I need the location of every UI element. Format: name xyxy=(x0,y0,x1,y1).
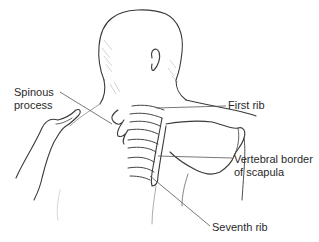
leader-vertebral xyxy=(158,156,232,158)
label-line: Vertebral border xyxy=(234,153,313,166)
anatomy-figure: Spinous process First rib Vertebral bord… xyxy=(0,0,319,242)
spine-fingers xyxy=(112,110,128,144)
leader-spinous xyxy=(60,92,112,124)
right-hand xyxy=(166,121,245,174)
leader-firstrib xyxy=(156,106,226,108)
label-first-rib: First rib xyxy=(228,99,265,112)
ear xyxy=(152,49,160,70)
leader-seventh xyxy=(150,176,210,226)
head-outline xyxy=(99,10,183,80)
neck-right xyxy=(176,80,186,100)
label-spinous-process: Spinous process xyxy=(14,86,54,112)
label-seventh-rib: Seventh rib xyxy=(212,221,268,234)
left-hand xyxy=(16,109,80,200)
torso-lines xyxy=(152,186,156,224)
anatomy-illustration xyxy=(0,0,319,242)
label-line: of scapula xyxy=(234,166,313,179)
label-line: Spinous xyxy=(14,86,54,99)
label-vertebral-border: Vertebral border of scapula xyxy=(234,153,313,179)
neck-left xyxy=(100,80,105,104)
label-line: process xyxy=(14,99,54,112)
scapula-border xyxy=(151,118,166,186)
